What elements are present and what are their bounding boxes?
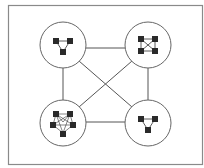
node [138, 116, 144, 122]
node [138, 36, 144, 42]
node [152, 48, 158, 54]
node [70, 122, 76, 128]
node [53, 38, 59, 44]
network-diagram [0, 0, 204, 168]
node [67, 38, 73, 44]
node [152, 116, 158, 122]
node [152, 36, 158, 42]
node [60, 131, 66, 137]
node [50, 122, 56, 128]
node [145, 127, 151, 133]
cluster-boundary [125, 100, 171, 146]
cluster-top-left [40, 22, 86, 68]
node [138, 48, 144, 54]
diagram-frame [9, 6, 203, 165]
cluster-boundary [40, 100, 86, 146]
node [67, 111, 73, 117]
node [60, 49, 66, 55]
cluster-bottom-right [125, 100, 171, 146]
cluster-boundary [40, 22, 86, 68]
cluster-top-right [125, 22, 171, 68]
cluster-bottom-left [40, 100, 86, 146]
node [53, 111, 59, 117]
